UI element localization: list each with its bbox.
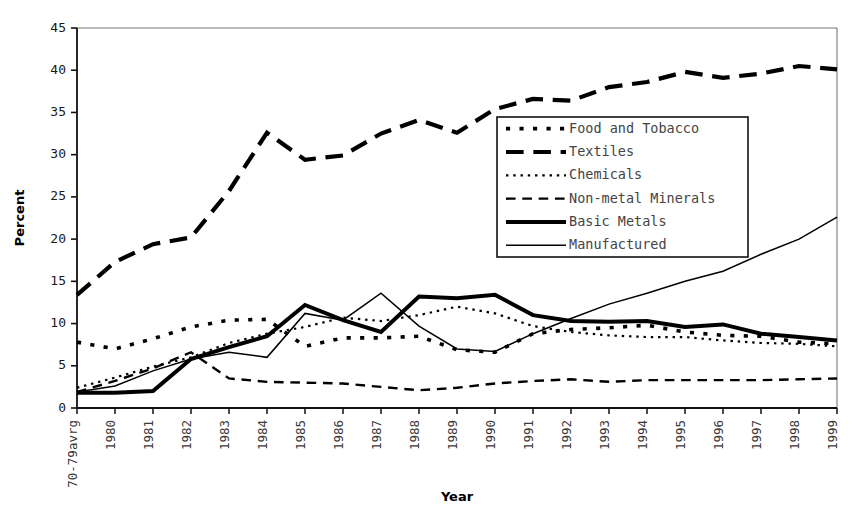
x-tick-label: 1999 [825, 420, 840, 450]
x-tick-label: 1994 [635, 420, 650, 450]
y-tick-label: 5 [58, 357, 66, 372]
x-tick-label: 70-79avrg [65, 420, 80, 488]
x-tick-label: 1997 [749, 420, 764, 450]
x-tick-label: 1988 [407, 420, 422, 450]
x-tick-label: 1982 [179, 420, 194, 450]
x-tick-label: 1996 [711, 420, 726, 450]
x-axis-title: Year [440, 489, 474, 504]
series-line-4 [77, 295, 837, 393]
y-tick-label: 10 [50, 315, 66, 330]
x-tick-label: 1991 [521, 420, 536, 450]
x-tick-label: 1985 [293, 420, 308, 450]
legend-label-4[interactable]: Basic Metals [569, 213, 667, 229]
y-tick-label: 40 [50, 62, 66, 77]
x-tick-label: 1981 [141, 420, 156, 450]
x-tick-label: 1989 [445, 420, 460, 450]
legend-label-1[interactable]: Textiles [569, 143, 634, 159]
figure-caption [8, 508, 858, 519]
y-tick-label: 0 [58, 400, 66, 415]
y-tick-label: 30 [50, 146, 66, 161]
y-tick-label: 20 [50, 231, 66, 246]
x-tick-label: 1986 [331, 420, 346, 450]
x-tick-label: 1993 [597, 420, 612, 450]
legend-label-0[interactable]: Food and Tobacco [569, 120, 699, 136]
x-tick-label: 1992 [559, 420, 574, 450]
x-tick-label: 1990 [483, 420, 498, 450]
x-tick-label: 1980 [103, 420, 118, 450]
legend: Food and TobaccoTextilesChemicalsNon-met… [497, 117, 748, 257]
y-tick-label: 45 [50, 20, 66, 35]
y-axis-title: Percent [12, 190, 27, 247]
x-tick-label: 1998 [787, 420, 802, 450]
y-tick-label: 35 [50, 104, 66, 119]
x-tick-label: 1984 [255, 420, 270, 450]
series-line-2 [77, 307, 837, 388]
legend-label-2[interactable]: Chemicals [569, 166, 642, 182]
y-axis: 051015202530354045Percent [12, 20, 77, 415]
legend-label-3[interactable]: Non-metal Minerals [569, 190, 715, 206]
y-tick-label: 25 [50, 188, 66, 203]
line-chart: 051015202530354045Percent70-79avrg198019… [0, 0, 864, 519]
x-tick-label: 1995 [673, 420, 688, 450]
y-tick-label: 15 [50, 273, 66, 288]
chart-figure: 051015202530354045Percent70-79avrg198019… [0, 0, 864, 519]
legend-label-5[interactable]: Manufactured [569, 236, 667, 252]
x-axis: 70-79avrg1980198119821983198419851986198… [65, 408, 840, 504]
x-tick-label: 1983 [217, 420, 232, 450]
x-tick-label: 1987 [369, 420, 384, 450]
